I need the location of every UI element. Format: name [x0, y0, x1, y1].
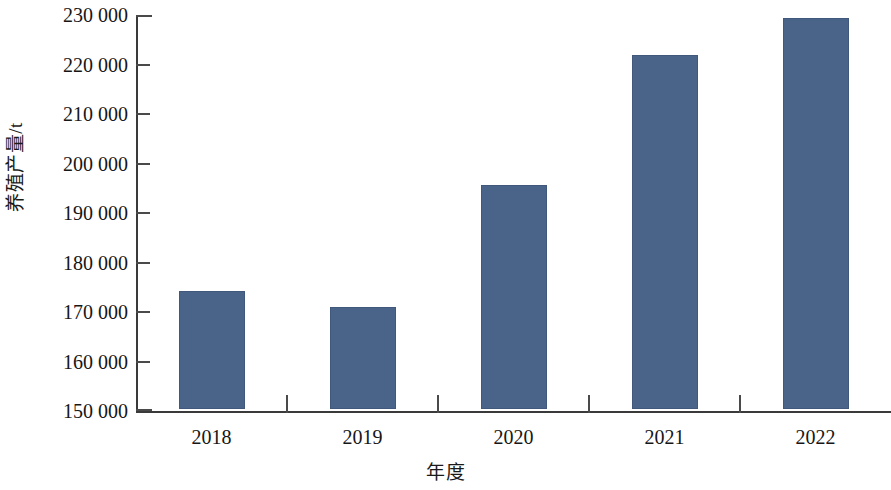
x-axis-tick	[286, 395, 288, 413]
y-axis-bottom-stub	[136, 409, 152, 411]
x-axis-tick	[437, 395, 439, 413]
plot-area	[136, 15, 891, 411]
y-axis-tick	[136, 311, 150, 313]
y-axis-tick-label: 200 000	[28, 154, 128, 174]
bar-chart: 养殖产量/t 230 000220 000210 000200 000190 0…	[0, 0, 891, 490]
y-axis-tick-label: 170 000	[28, 302, 128, 322]
bar[interactable]	[179, 291, 245, 409]
y-axis-tick-labels: 230 000220 000210 000200 000190 000180 0…	[20, 0, 128, 490]
x-axis-tick-label: 2022	[756, 424, 876, 450]
x-axis-tick-label: 2020	[454, 424, 574, 450]
y-axis-tick-label: 210 000	[28, 104, 128, 124]
bar[interactable]	[481, 185, 547, 409]
x-axis-tick-labels: 20182019202020212022	[136, 424, 891, 454]
y-axis-tick-label: 190 000	[28, 203, 128, 223]
x-axis-tick-label: 2018	[152, 424, 272, 450]
x-axis-title: 年度	[0, 461, 891, 485]
x-axis-line	[136, 411, 891, 413]
bar[interactable]	[330, 307, 396, 409]
y-axis-top-stub	[136, 15, 152, 17]
y-axis-tick	[136, 262, 150, 264]
y-axis-tick	[136, 64, 150, 66]
y-axis-tick	[136, 163, 150, 165]
y-axis-tick	[136, 212, 150, 214]
bar[interactable]	[783, 18, 849, 409]
y-axis-tick-label: 220 000	[28, 55, 128, 75]
x-axis-tick	[588, 395, 590, 413]
y-axis-tick-label: 150 000	[28, 401, 128, 421]
y-axis-tick	[136, 113, 150, 115]
y-axis-tick	[136, 361, 150, 363]
x-axis-tick	[739, 395, 741, 413]
y-axis-tick-label: 180 000	[28, 253, 128, 273]
y-axis-tick-label: 160 000	[28, 352, 128, 372]
y-axis-tick-label: 230 000	[28, 5, 128, 25]
x-axis-tick-label: 2021	[605, 424, 725, 450]
x-axis-tick-label: 2019	[303, 424, 423, 450]
bar[interactable]	[632, 55, 698, 409]
